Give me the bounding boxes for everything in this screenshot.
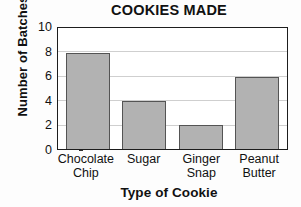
bar[interactable] xyxy=(179,125,223,149)
y-tick-label: 0 xyxy=(26,144,52,156)
bar-chart-figure: COOKIES MADE Number of Batches 1086420 C… xyxy=(0,0,301,207)
y-tick-label: 4 xyxy=(26,95,52,107)
x-tick-label: GingerSnap xyxy=(173,152,231,180)
bar-slot xyxy=(229,28,285,149)
plot-area xyxy=(57,27,288,150)
y-axis-tick-labels: 1086420 xyxy=(26,20,52,158)
y-tick-label: 8 xyxy=(26,46,52,58)
x-axis-title: Type of Cookie xyxy=(48,185,290,200)
bar-slot xyxy=(116,28,172,149)
y-tick-mark xyxy=(79,150,83,151)
bar[interactable] xyxy=(122,101,166,149)
x-tick-label: Sugar xyxy=(115,152,173,180)
x-tick-label: ChocolateChip xyxy=(57,152,115,180)
y-tick-label: 10 xyxy=(26,21,52,33)
y-tick-label: 2 xyxy=(26,119,52,131)
bar-slot xyxy=(173,28,229,149)
bar-series xyxy=(58,28,287,149)
y-tick-label: 6 xyxy=(26,70,52,82)
bar[interactable] xyxy=(235,77,279,149)
bar[interactable] xyxy=(66,53,110,149)
chart-title: COOKIES MADE xyxy=(48,2,290,18)
x-tick-label: PeanutButter xyxy=(230,152,288,180)
x-axis-tick-labels: ChocolateChipSugarGingerSnapPeanutButter xyxy=(57,152,288,180)
bar-slot xyxy=(60,28,116,149)
